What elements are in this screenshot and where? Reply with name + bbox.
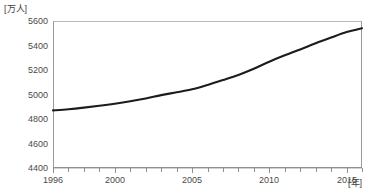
- line-chart: [万人] [年] 5600540052005000480046004400 19…: [0, 0, 374, 196]
- population-line-series: [53, 28, 362, 110]
- series-layer: [0, 0, 374, 196]
